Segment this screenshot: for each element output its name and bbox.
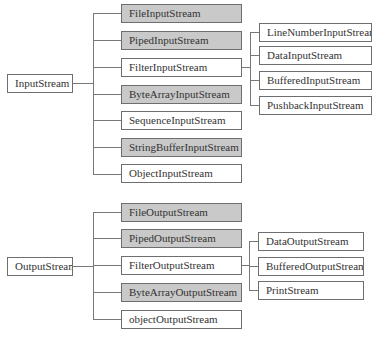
node-filter-input-stream: FilterInputStream — [121, 58, 242, 77]
node-byte-array-output-stream: ByteArrayOutputStream — [121, 283, 242, 302]
connector — [250, 80, 259, 81]
connector — [93, 212, 121, 213]
connector — [250, 32, 251, 106]
connector — [93, 147, 121, 148]
connector — [93, 94, 121, 95]
node-object-input-stream: ObjectInputStream — [121, 164, 242, 183]
connector — [93, 174, 121, 175]
node-piped-input-stream: PipedInputStream — [121, 31, 242, 50]
node-data-input-stream: DataInputStream — [259, 46, 372, 65]
connector — [73, 266, 93, 267]
connector — [93, 212, 94, 320]
connector — [93, 67, 121, 68]
connector — [242, 265, 249, 266]
node-object-output-stream: objectOutputStream — [121, 310, 242, 329]
connector — [93, 265, 121, 266]
node-file-input-stream: FileInputStream — [121, 4, 242, 23]
connector — [242, 67, 250, 68]
node-buffered-input-stream: BufferedInputStream — [259, 71, 372, 90]
node-filter-output-stream: FilterOutputStream — [121, 256, 242, 275]
connector — [250, 32, 259, 33]
node-byte-array-input-stream: ByteArrayInputStream — [121, 85, 242, 104]
node-line-number-input-stream: LineNumberInputStream — [259, 23, 372, 42]
connector — [249, 241, 258, 242]
node-output-stream: OutputStream — [7, 257, 73, 276]
node-data-output-stream: DataOutputStream — [258, 232, 364, 251]
node-buffered-output-stream: BufferedOutputStream — [258, 257, 364, 276]
connector — [250, 105, 259, 106]
connector — [93, 319, 121, 320]
connector — [93, 13, 121, 14]
node-pushback-input-stream: PushbackInputStream — [259, 96, 372, 115]
connector — [93, 40, 121, 41]
node-input-stream: InputStream — [7, 74, 73, 93]
connector — [73, 83, 93, 84]
connector — [93, 292, 121, 293]
node-string-buffer-input-stream: StringBufferInputStream — [121, 138, 242, 157]
connector — [249, 290, 258, 291]
connector — [249, 266, 258, 267]
node-sequence-input-stream: SequenceInputStream — [121, 111, 242, 130]
node-file-output-stream: FileOutputStream — [121, 203, 242, 222]
connector — [250, 55, 259, 56]
node-piped-output-stream: PipedOutputStream — [121, 229, 242, 248]
connector — [93, 238, 121, 239]
connector — [93, 120, 121, 121]
node-print-stream: PrintStream — [258, 281, 364, 300]
